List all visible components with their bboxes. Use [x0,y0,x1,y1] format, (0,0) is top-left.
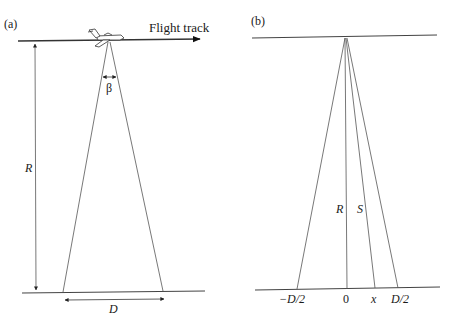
swath-arrow [65,299,164,300]
flight-line-b [252,35,437,38]
range-label-b: R [336,203,343,215]
panel-b-label: (b) [251,15,265,27]
diagram-canvas [0,0,456,324]
slant-range-label: S [357,203,363,215]
tick-x: x [371,293,376,305]
panel-b [252,35,440,290]
beam-angle-label: β [106,82,112,94]
ground-line-a [22,291,205,293]
ray-nadir-R [345,38,347,289]
ray-plus-half-swath [347,38,398,288]
tick-plus-half-swath: D/2 [391,293,409,305]
tick-minus-half-swath: −D/2 [279,293,305,305]
range-arrow [35,44,36,290]
ground-line-b [255,287,440,290]
ray-minus-half-swath [297,38,345,289]
ray-slant-S [346,38,375,288]
range-label: R [25,162,32,174]
panel-a-label: (a) [4,18,17,30]
beam-right-edge [110,42,163,291]
swath-label: D [109,303,118,315]
flight-track-label: Flight track [149,21,209,34]
tick-zero: 0 [343,293,349,305]
aircraft-icon [88,29,124,47]
panel-a [18,29,205,300]
beam-left-edge [63,42,108,292]
